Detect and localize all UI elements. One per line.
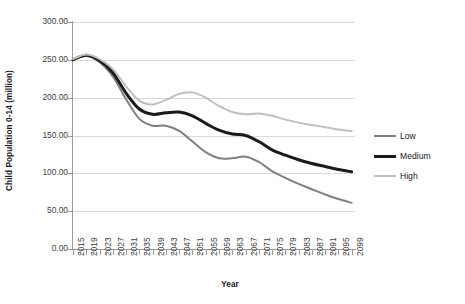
x-tick-label: 2027: [117, 237, 125, 256]
y-tick-label: 200.00: [24, 93, 68, 101]
x-tick-label: 2015: [77, 237, 85, 256]
y-axis-tick: [67, 136, 72, 137]
x-axis-tick: [246, 250, 247, 255]
y-axis-title: Child Population 0-14 (million): [0, 0, 18, 260]
x-axis-tick: [325, 250, 326, 255]
x-tick-label: 2063: [236, 237, 244, 256]
x-axis-title: Year: [180, 280, 280, 289]
y-axis-title-text: Child Population 0-14 (million): [5, 70, 14, 191]
x-axis-tick: [133, 250, 134, 255]
x-axis-tick: [93, 250, 94, 255]
x-tick-label: 2071: [263, 237, 271, 256]
y-axis-tick: [67, 60, 72, 61]
legend-item-high[interactable]: High: [374, 166, 462, 186]
x-tick-label: 2039: [157, 237, 165, 256]
legend-swatch-high: [374, 175, 396, 177]
x-axis-tick: [179, 250, 180, 255]
x-axis-tick: [272, 250, 273, 255]
y-tick-label: 250.00: [24, 55, 68, 63]
x-axis-tick: [153, 250, 154, 255]
legend-item-medium[interactable]: Medium: [374, 146, 462, 166]
x-axis-tick: [252, 250, 253, 255]
y-axis-tick: [67, 249, 72, 250]
x-axis-tick: [345, 250, 346, 255]
x-axis-tick: [192, 250, 193, 255]
x-axis-tick: [139, 250, 140, 255]
x-tick-label: 2051: [196, 237, 204, 256]
legend-swatch-low: [374, 135, 396, 137]
x-axis-tick: [173, 250, 174, 255]
x-axis-tick: [299, 250, 300, 255]
series-lines: [73, 22, 355, 249]
legend-swatch-medium: [374, 155, 396, 158]
x-axis-tick: [166, 250, 167, 255]
x-axis-tick: [259, 250, 260, 255]
legend-item-low[interactable]: Low: [374, 126, 462, 146]
x-axis-tick: [86, 250, 87, 255]
x-tick-label: 2075: [276, 237, 284, 256]
y-tick-label: 50.00: [24, 206, 68, 214]
x-tick-label: 2083: [303, 237, 311, 256]
x-axis-tick: [332, 250, 333, 255]
chart-legend: LowMediumHigh: [374, 126, 462, 186]
legend-label: Medium: [400, 151, 431, 161]
y-tick-label: 300.00: [24, 17, 68, 25]
x-axis-tick: [352, 250, 353, 255]
y-axis-tick: [67, 211, 72, 212]
y-axis-tick: [67, 173, 72, 174]
y-axis-tick-labels: 0.0050.00100.00150.00200.00250.00300.00: [18, 0, 68, 304]
x-axis-tick: [212, 250, 213, 255]
x-tick-label: 2055: [210, 237, 218, 256]
legend-label: High: [400, 171, 418, 181]
x-axis-tick: [239, 250, 240, 255]
y-tick-label: 0.00: [24, 244, 68, 252]
plot-area: [73, 22, 355, 249]
legend-label: Low: [400, 131, 416, 141]
x-axis-tick: [146, 250, 147, 255]
x-axis-tick: [265, 250, 266, 255]
y-axis-tick: [67, 22, 72, 23]
x-axis-tick: [80, 250, 81, 255]
x-tick-label: 2031: [130, 237, 138, 256]
x-tick-label: 2043: [170, 237, 178, 256]
x-tick-label: 2091: [329, 237, 337, 256]
x-tick-label: 2099: [356, 237, 364, 256]
x-axis-tick: [113, 250, 114, 255]
x-axis-tick: [305, 250, 306, 255]
x-axis-tick: [119, 250, 120, 255]
x-tick-label: 2087: [316, 237, 324, 256]
x-tick-label: 2047: [183, 237, 191, 256]
x-axis-tick: [73, 250, 74, 255]
series-line-high: [73, 55, 352, 131]
x-tick-label: 2019: [90, 237, 98, 256]
x-axis-tick: [226, 250, 227, 255]
y-axis-tick: [67, 98, 72, 99]
y-tick-label: 100.00: [24, 168, 68, 176]
x-axis-tick: [279, 250, 280, 255]
x-axis-tick: [206, 250, 207, 255]
x-tick-label: 2067: [250, 237, 258, 256]
x-axis-tick: [186, 250, 187, 255]
y-tick-label: 150.00: [24, 131, 68, 139]
x-axis-tick: [159, 250, 160, 255]
x-axis-tick: [232, 250, 233, 255]
x-axis-tick: [338, 250, 339, 255]
chart-container: Child Population 0-14 (million) 0.0050.0…: [0, 0, 465, 304]
x-axis-tick: [285, 250, 286, 255]
x-tick-label: 2023: [104, 237, 112, 256]
x-axis-tick: [106, 250, 107, 255]
x-tick-label: 2059: [223, 237, 231, 256]
x-axis-tick: [292, 250, 293, 255]
x-axis-tick: [199, 250, 200, 255]
x-axis-tick: [100, 250, 101, 255]
x-axis-tick: [219, 250, 220, 255]
x-tick-label: 2035: [143, 237, 151, 256]
x-axis-tick: [126, 250, 127, 255]
x-axis-tick: [319, 250, 320, 255]
x-tick-label: 2079: [289, 237, 297, 256]
x-tick-label: 2095: [342, 237, 350, 256]
x-axis-tick: [312, 250, 313, 255]
